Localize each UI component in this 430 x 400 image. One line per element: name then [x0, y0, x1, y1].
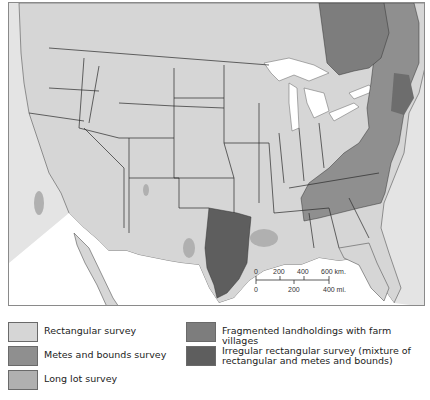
survey-map: 0 200 400 600 km. 0 200 400 mi. — [8, 2, 425, 306]
swatch-rectangular — [8, 322, 38, 342]
long-lot-california — [34, 191, 44, 215]
scale-km-400: 400 — [297, 268, 309, 275]
scale-mi-200: 200 — [288, 286, 300, 293]
legend-item-metes-bounds: Metes and bounds survey — [8, 346, 166, 366]
swatch-metes-bounds — [8, 346, 38, 366]
legend-label: Irregular rectangular survey (mixture of… — [222, 346, 426, 366]
legend-item-long-lot: Long lot survey — [8, 370, 117, 390]
swatch-long-lot — [8, 370, 38, 390]
legend-item-irregular-rectangular: Irregular rectangular survey (mixture of… — [186, 346, 426, 366]
scale-mi-400: 400 mi. — [323, 286, 346, 293]
legend-label: Metes and bounds survey — [44, 346, 166, 360]
legend-label: Fragmented landholdings with farm villag… — [222, 322, 428, 346]
long-lot-texas-west — [183, 238, 195, 258]
swatch-fragmented — [186, 322, 216, 342]
scale-mi-0: 0 — [254, 286, 258, 293]
scale-km-600: 600 km. — [321, 268, 346, 275]
legend-label: Long lot survey — [44, 370, 117, 384]
legend-item-fragmented: Fragmented landholdings with farm villag… — [186, 322, 428, 346]
long-lot-newmexico — [143, 184, 149, 196]
long-lot-louisiana — [250, 229, 278, 247]
scale-km-0: 0 — [254, 268, 258, 275]
legend-item-rectangular: Rectangular survey — [8, 322, 136, 342]
swatch-irregular-rectangular — [186, 346, 216, 366]
map-legend: Rectangular survey Metes and bounds surv… — [8, 322, 428, 397]
scale-km-200: 200 — [273, 268, 285, 275]
map-graphic: 0 200 400 600 km. 0 200 400 mi. — [9, 3, 425, 306]
legend-label: Rectangular survey — [44, 322, 136, 336]
